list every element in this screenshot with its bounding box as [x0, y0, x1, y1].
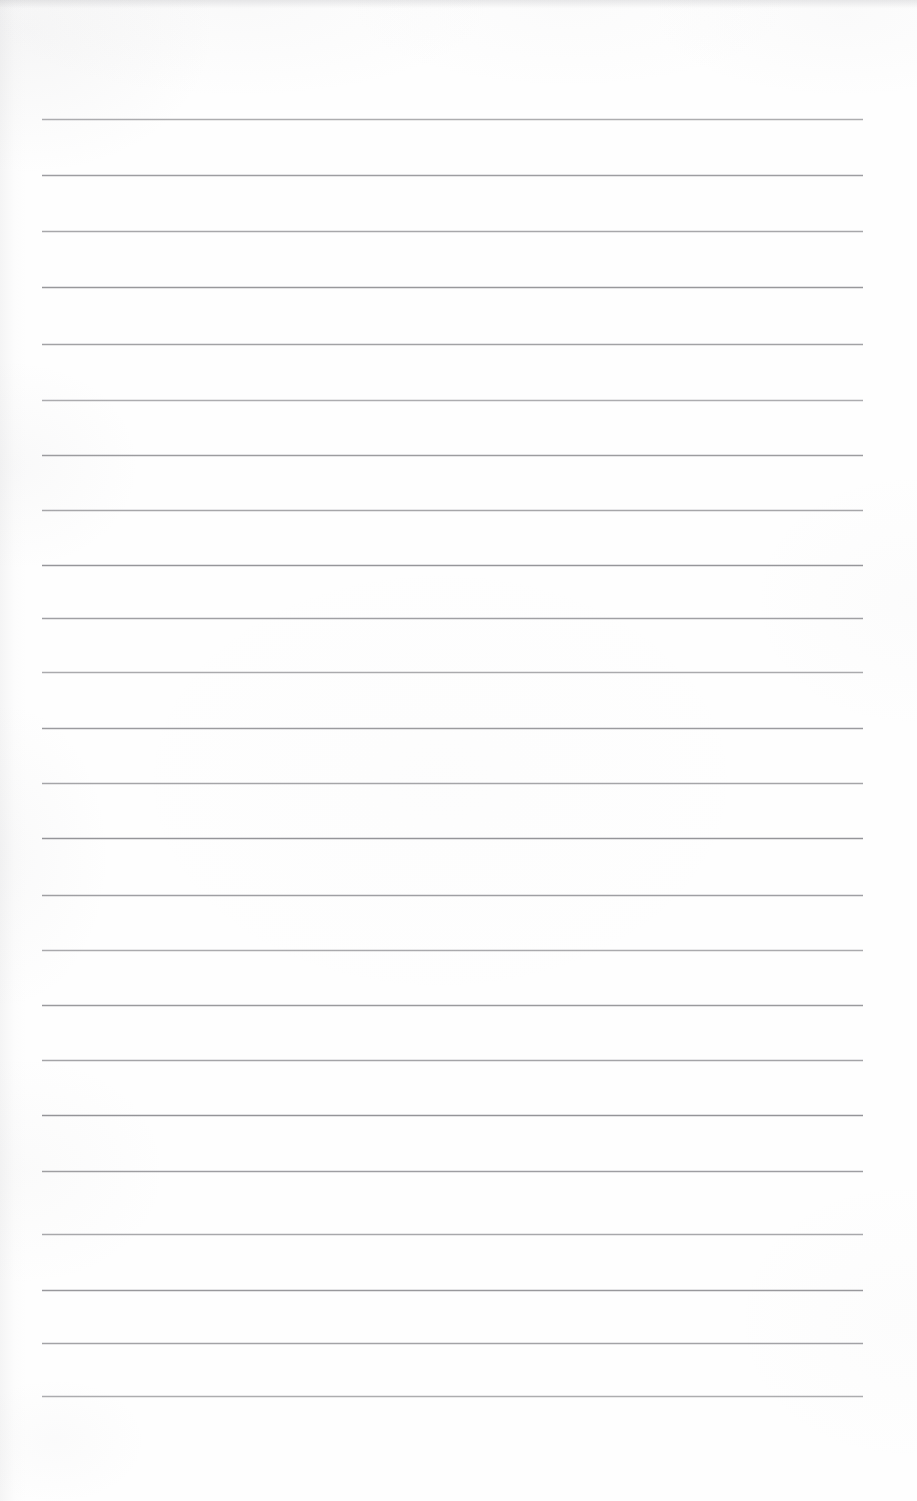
ruled-line [42, 1343, 863, 1344]
ruled-line [42, 510, 863, 511]
ruled-line [42, 1234, 863, 1235]
ruled-line [42, 400, 863, 401]
ruled-line [42, 672, 863, 673]
ruled-line [42, 838, 863, 839]
ruled-line [42, 119, 863, 120]
ruled-line [42, 618, 863, 619]
ruled-line [42, 565, 863, 566]
ruled-line [42, 344, 863, 345]
ruled-line [42, 783, 863, 784]
scanned-page [0, 0, 917, 1501]
ruled-line [42, 1115, 863, 1116]
ruled-lines-group [0, 0, 917, 1501]
ruled-line [42, 1171, 863, 1172]
ruled-line [42, 950, 863, 951]
ruled-line [42, 1060, 863, 1061]
ruled-line [42, 895, 863, 896]
ruled-line [42, 175, 863, 176]
ruled-line [42, 1005, 863, 1006]
ruled-line [42, 455, 863, 456]
ruled-line [42, 1290, 863, 1291]
ruled-line [42, 728, 863, 729]
ruled-line [42, 1396, 863, 1397]
ruled-line [42, 231, 863, 232]
ruled-line [42, 287, 863, 288]
